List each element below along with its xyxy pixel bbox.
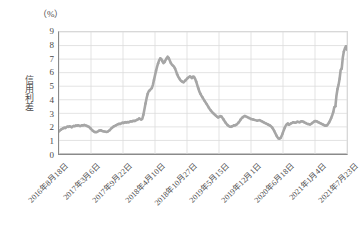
x-axis-tick-labels: 2016年8月18日2017年3月6日2017年9月22日2018年4月10日2… [0,0,364,228]
credit-spread-chart: （%） 信用利差 9876543210 2016年8月18日2017年3月6日2… [0,0,364,228]
